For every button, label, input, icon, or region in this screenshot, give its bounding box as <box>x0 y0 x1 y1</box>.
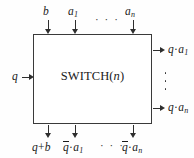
top-input-label-an: an <box>125 6 135 19</box>
top-input-label-a1: a1 <box>68 6 78 19</box>
right-output-arrowhead-q-a1 <box>160 47 165 53</box>
top-input-label-b: b <box>43 6 49 18</box>
bottom-output-label-q-plus-b: q+b <box>32 142 50 154</box>
bottom-output-label-nq-a1: q·a1 <box>63 142 83 155</box>
bottom-output-arrowhead-nq-an <box>130 133 136 138</box>
bottom-output-arrowhead-nq-a1 <box>72 133 78 138</box>
left-input-label-q: q <box>12 71 18 83</box>
bottom-ellipsis: · · · <box>100 140 125 151</box>
top-ellipsis: · · · <box>95 14 120 25</box>
right-output-arrowhead-q-an <box>160 105 165 111</box>
right-ellipsis <box>164 72 167 90</box>
switch-block-diagram: b a1 an · · · q SWITCH(n) q·a1 q·an <box>0 0 194 158</box>
right-output-label-q-a1: q·a1 <box>168 44 188 57</box>
switch-block-label: SWITCH(n) <box>33 69 152 84</box>
right-output-label-q-an: q·an <box>168 102 188 115</box>
bottom-output-label-nq-an: q·an <box>122 142 142 155</box>
bottom-output-arrowhead-q-plus-b <box>45 133 51 138</box>
